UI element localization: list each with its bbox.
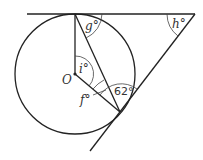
label-i: i°	[79, 62, 89, 76]
label-62: 62°	[114, 85, 134, 98]
label-g: g°	[85, 19, 99, 33]
arc-f	[93, 80, 104, 89]
center-point	[73, 72, 76, 75]
label-h: h°	[172, 17, 186, 31]
circle-tangent-diagram: g° h° i° O 62° f°	[0, 0, 203, 160]
label-o: O	[62, 73, 72, 87]
label-f: f°	[79, 93, 90, 107]
